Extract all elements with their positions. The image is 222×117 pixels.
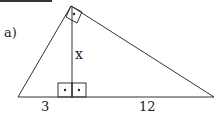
apex-angle-dot bbox=[73, 13, 75, 15]
foot-angle-dot-left bbox=[64, 89, 66, 91]
segment-left-label: 3 bbox=[41, 99, 49, 114]
foot-angle-dot-right bbox=[78, 89, 80, 91]
right-triangle-diagram bbox=[0, 0, 222, 117]
triangle-outline bbox=[18, 6, 214, 97]
altitude-label: x bbox=[75, 46, 83, 62]
part-label: a) bbox=[4, 25, 17, 40]
segment-right-label: 12 bbox=[139, 99, 156, 114]
